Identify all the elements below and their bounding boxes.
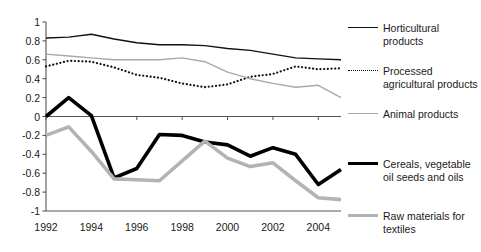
legend-item-cereals-vegetable-oil-seeds-and-oils: Cereals, vegetable oil seeds and oils [348, 158, 478, 183]
y-axis-tick-label: -0.2 [6, 130, 40, 141]
y-axis-tick-label: 0 [6, 112, 40, 123]
legend-swatch-dotted-line-icon [348, 70, 378, 71]
legend-item-animal-products: Animal products [348, 108, 458, 121]
y-axis-tick-label: -0.6 [6, 168, 40, 179]
x-axis-tick-label: 1992 [26, 222, 66, 233]
y-axis-tick-label: -0.4 [6, 149, 40, 160]
y-axis-tick-label: 0.2 [6, 93, 40, 104]
x-axis-tick-label: 2000 [208, 222, 248, 233]
series-line-processed-agricultural-products [46, 61, 341, 87]
series-line-cereals-vegetable-oil-seeds-and-oils [46, 98, 341, 185]
x-axis-tick-label: 1994 [71, 222, 111, 233]
legend-swatch-solid-thick-black-line-icon [348, 162, 378, 165]
x-axis-tick-label: 1998 [162, 222, 202, 233]
y-axis-tick-label: 0.8 [6, 36, 40, 47]
y-axis-tick-label: -1 [6, 206, 40, 217]
legend-label: Animal products [383, 108, 458, 121]
series-line-horticultural-products [46, 34, 341, 60]
x-axis-tick-label: 2004 [298, 222, 338, 233]
legend-swatch-solid-thick-grey-line-icon [348, 214, 378, 217]
chart-legend: Horticultural products Processed agricul… [348, 0, 481, 252]
legend-label: Raw materials for textiles [383, 210, 478, 235]
legend-item-horticultural-products: Horticultural products [348, 22, 478, 47]
y-axis-tick-label: -0.8 [6, 187, 40, 198]
legend-label: Horticultural products [383, 22, 478, 47]
chart-container: 10.80.60.40.20-0.2-0.4-0.6-0.8-1 1992199… [0, 0, 481, 252]
legend-item-raw-materials-for-textiles: Raw materials for textiles [348, 210, 478, 235]
y-axis-tick-label: 0.4 [6, 74, 40, 85]
legend-swatch-solid-thin-line-icon [348, 27, 378, 28]
x-axis-tick-label: 2002 [253, 222, 293, 233]
x-axis-tick-label: 1996 [117, 222, 157, 233]
legend-label: Cereals, vegetable oil seeds and oils [383, 158, 478, 183]
y-axis-tick-label: 0.6 [6, 55, 40, 66]
y-axis-tick-label: 1 [6, 17, 40, 28]
legend-item-processed-agricultural-products: Processed agricultural products [348, 65, 478, 90]
legend-label: Processed agricultural products [383, 65, 478, 90]
legend-swatch-solid-grey-thin-line-icon [348, 113, 378, 114]
